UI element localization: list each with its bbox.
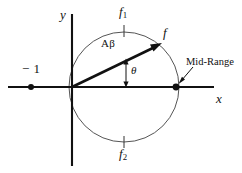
f2-label: f2 — [119, 147, 127, 162]
f-vector-arrowhead — [150, 43, 162, 52]
minus-one-label: − 1 — [22, 62, 41, 75]
mid-range-point-dot — [173, 84, 180, 91]
f-vector-label: f — [163, 26, 167, 39]
amplitude-label: Aβ — [101, 38, 115, 49]
mid-range-label: Mid-Range — [186, 57, 234, 68]
f-vector-shaft — [72, 47, 156, 88]
f1-label: f1 — [119, 5, 127, 20]
f1-label-subscript: 1 — [123, 10, 128, 20]
minus-one-point-dot — [28, 84, 34, 90]
x-axis-label: x — [216, 92, 222, 105]
y-axis-label: y — [60, 8, 66, 21]
theta-label: θ — [131, 65, 136, 76]
vector-phasor-diagram: y x f1 f2 f Aβ θ − 1 Mid-Range — [0, 0, 242, 173]
f2-label-subscript: 2 — [123, 152, 128, 162]
